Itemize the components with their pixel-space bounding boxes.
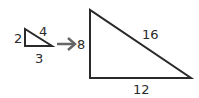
small-hyp-label: 4 xyxy=(39,25,47,38)
small-bottom-label: 3 xyxy=(35,52,43,65)
arrow-right-icon xyxy=(57,38,75,50)
diagram-canvas xyxy=(0,0,199,98)
small-left-label: 2 xyxy=(14,32,22,45)
large-triangle xyxy=(90,10,191,78)
large-left-label: 8 xyxy=(77,38,85,51)
large-hyp-label: 16 xyxy=(142,28,159,41)
large-bottom-label: 12 xyxy=(133,83,150,96)
